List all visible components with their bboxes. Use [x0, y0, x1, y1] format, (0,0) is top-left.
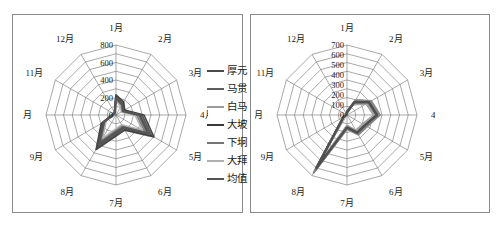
axis-label-3月: 3月 [189, 68, 203, 78]
radial-tick-label: 600 [100, 58, 113, 68]
axis-label-10月: 10月 [255, 110, 263, 120]
legend-label: 下坰 [227, 138, 247, 149]
radar-panel-left: 02004006008001月2月3月4月5月6月7月8月9月10月11月12月… [12, 14, 243, 213]
axis-label-3月: 3月 [420, 68, 434, 78]
radar-chart-left: 02004006008001月2月3月4月5月6月7月8月9月10月11月12月 [23, 20, 208, 210]
legend-label: 大坡 [227, 120, 247, 131]
radial-tick-label: 200 [331, 90, 344, 100]
axis-label-11月: 11月 [26, 68, 44, 78]
left-legend-item[interactable]: 均值 [207, 170, 247, 188]
legend-color-swatch [207, 106, 224, 108]
radial-tick-label: 0 [109, 110, 113, 120]
axis-label-9月: 9月 [261, 152, 275, 162]
axis-label-10月: 10月 [23, 110, 32, 120]
legend-color-swatch [207, 124, 224, 126]
left-legend-item[interactable]: 大坡 [207, 116, 247, 134]
legend-color-swatch [207, 142, 224, 144]
axis-label-8月: 8月 [61, 187, 75, 197]
radial-tick-label: 400 [331, 70, 344, 80]
left-legend-item[interactable]: 厚元 [207, 62, 247, 80]
axis-label-8月: 8月 [292, 187, 306, 197]
radial-tick-label: 800 [100, 40, 113, 50]
axis-label-12月: 12月 [56, 34, 74, 44]
legend-color-swatch [207, 70, 224, 72]
axis-label-1月: 1月 [340, 23, 354, 33]
axis-label-9月: 9月 [30, 152, 44, 162]
radial-tick-label: 300 [331, 80, 344, 90]
legend-left: 厚元马贯白马大坡下坰大拜均值 [207, 62, 247, 188]
axis-label-7月: 7月 [340, 198, 354, 208]
axis-label-2月: 2月 [389, 34, 403, 44]
left-legend-item[interactable]: 马贯 [207, 80, 247, 98]
radial-tick-label: 200 [100, 93, 113, 103]
axis-label-2月: 2月 [158, 34, 172, 44]
axis-label-5月: 5月 [420, 152, 434, 162]
figure-root: 02004006008001月2月3月4月5月6月7月8月9月10月11月12月… [0, 0, 497, 230]
radial-tick-label: 500 [331, 60, 344, 70]
legend-color-swatch [207, 160, 224, 162]
legend-color-swatch [207, 178, 224, 180]
radar-panel-right: 01002003004005006007001月2月3月4月5月6月7月8月9月… [250, 14, 490, 213]
axis-label-11月: 11月 [257, 68, 275, 78]
radar-chart-right: 01002003004005006007001月2月3月4月5月6月7月8月9月… [255, 20, 435, 210]
legend-label: 白马 [227, 102, 247, 113]
axis-label-6月: 6月 [389, 187, 403, 197]
legend-color-swatch [207, 88, 224, 90]
left-legend-item[interactable]: 下坰 [207, 134, 247, 152]
legend-label: 大拜 [227, 156, 247, 167]
axis-label-7月: 7月 [109, 198, 123, 208]
legend-label: 厚元 [227, 66, 247, 77]
axis-label-1月: 1月 [109, 23, 123, 33]
radial-tick-label: 400 [100, 75, 113, 85]
axis-label-4月: 4月 [431, 110, 435, 120]
radial-tick-label: 700 [331, 40, 344, 50]
axis-label-12月: 12月 [287, 34, 305, 44]
axis-label-5月: 5月 [189, 152, 203, 162]
radial-tick-label: 0 [340, 110, 344, 120]
axis-label-6月: 6月 [158, 187, 172, 197]
legend-label: 马贯 [227, 84, 247, 95]
left-legend-item[interactable]: 白马 [207, 98, 247, 116]
radial-tick-label: 100 [331, 100, 344, 110]
radial-tick-label: 600 [331, 50, 344, 60]
legend-label: 均值 [227, 174, 247, 185]
left-legend-item[interactable]: 大拜 [207, 152, 247, 170]
